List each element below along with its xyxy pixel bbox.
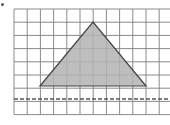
grid-diagram [0,0,170,125]
diagram-canvas [0,0,170,125]
triangle-shape [40,22,146,86]
corner-mark [1,3,4,6]
